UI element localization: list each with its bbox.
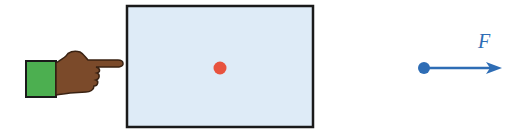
center-of-mass-dot: [214, 62, 227, 75]
force-vector: [418, 62, 502, 74]
diagram-canvas: [0, 0, 520, 131]
pushing-hand: [26, 51, 123, 97]
force-label: F: [478, 30, 490, 53]
hand-icon: [56, 51, 123, 95]
sleeve: [26, 61, 56, 97]
